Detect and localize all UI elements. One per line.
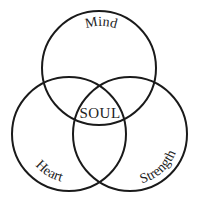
label-strength: Strength (138, 148, 179, 187)
label-soul: SOUL (79, 105, 120, 121)
circle-heart (12, 77, 126, 191)
circle-strength (73, 77, 187, 191)
venn-diagram: Mind Heart Strength SOUL (0, 0, 198, 202)
label-mind: Mind (84, 14, 119, 32)
